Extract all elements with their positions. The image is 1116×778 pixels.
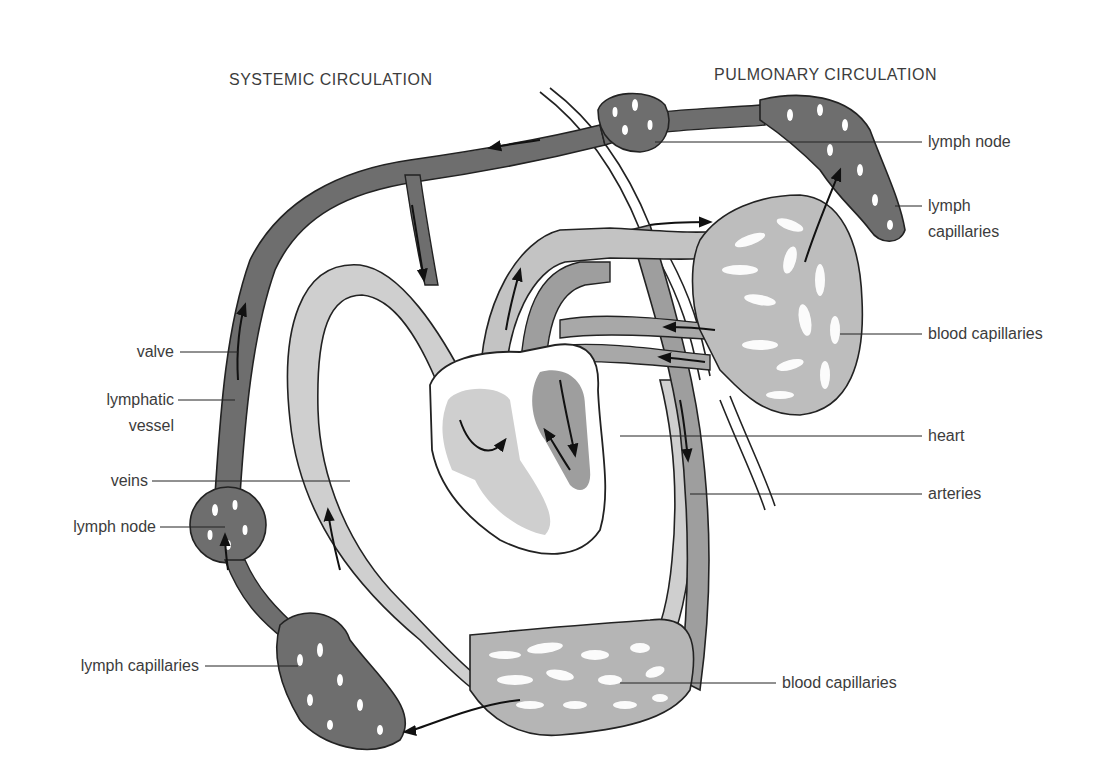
- label-lymphatic-vessel-line2: vessel: [129, 415, 174, 437]
- label-blood-capillaries-upper: blood capillaries: [928, 323, 1043, 345]
- label-lymph-node-right: lymph node: [928, 131, 1011, 153]
- label-veins: veins: [111, 470, 148, 492]
- label-arteries: arteries: [928, 483, 981, 505]
- label-heart: heart: [928, 425, 964, 447]
- header-pulmonary-circulation: PULMONARY CIRCULATION: [714, 66, 937, 84]
- lung-capillary-bed: [693, 195, 863, 415]
- lymph-node-left: [190, 487, 266, 563]
- label-lymphatic-vessel-line1: lymphatic: [106, 389, 174, 411]
- label-valve: valve: [137, 341, 174, 363]
- label-lymph-node-left: lymph node: [73, 516, 156, 538]
- label-blood-capillaries-lower: blood capillaries: [782, 672, 897, 694]
- label-lymph-capillaries-right-line2: capillaries: [928, 221, 999, 243]
- label-lymph-capillaries-right-line1: lymph: [928, 195, 971, 217]
- header-systemic-circulation: SYSTEMIC CIRCULATION: [229, 71, 433, 89]
- label-lymph-capillaries-left: lymph capillaries: [81, 655, 199, 677]
